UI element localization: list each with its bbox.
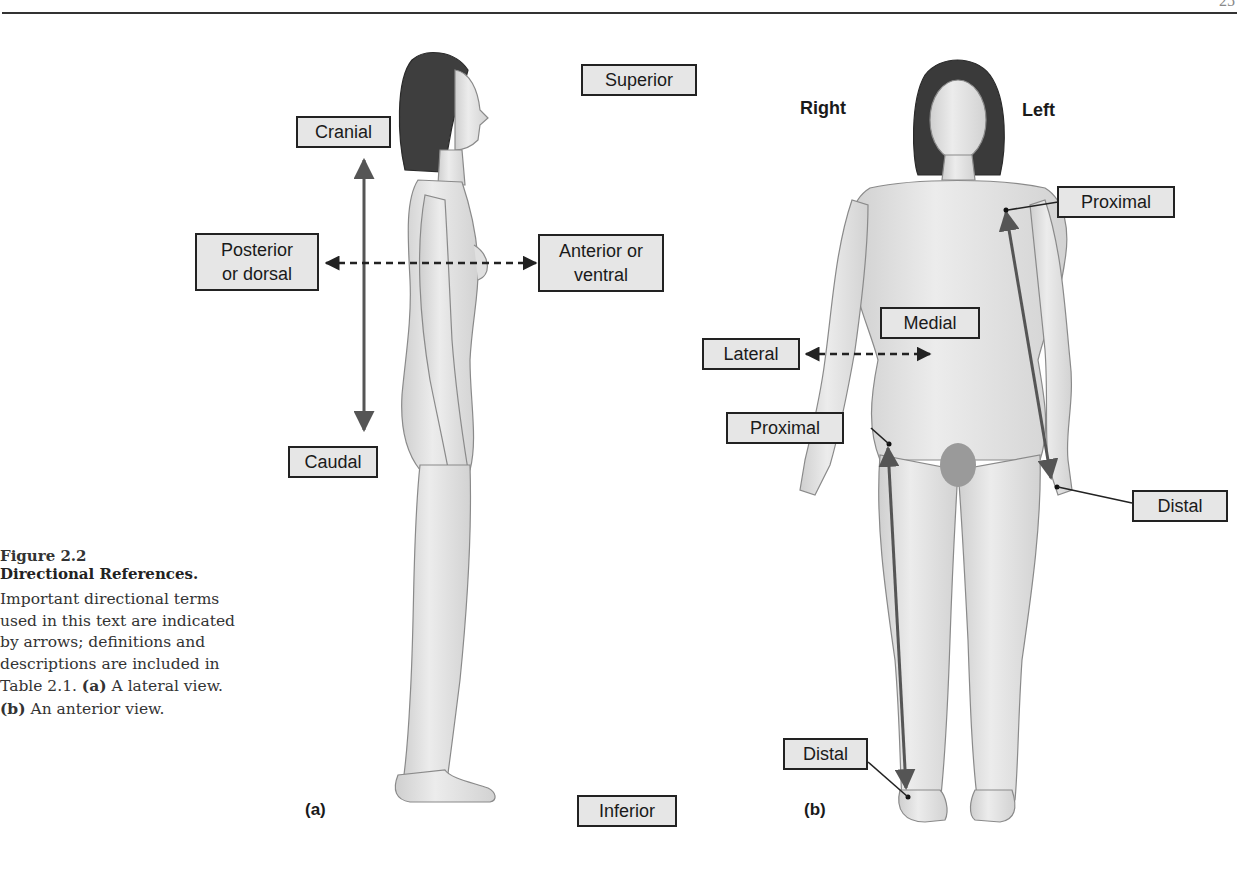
label-posterior-dorsal: Posterior or dorsal — [195, 233, 319, 291]
label-superior: Superior — [581, 64, 697, 96]
label-inferior: Inferior — [577, 795, 677, 827]
label-proximal-arm: Proximal — [1057, 186, 1175, 218]
label-anterior-ventral: Anterior or ventral — [538, 234, 664, 292]
panel-label-b: (b) — [804, 800, 826, 820]
caption-text-2: A lateral view. — [107, 677, 223, 695]
lateral-figure — [395, 53, 495, 802]
figure-number: Figure 2.2 — [0, 547, 235, 565]
label-posterior-line1: Posterior — [205, 238, 309, 262]
label-distal-arm: Distal — [1132, 490, 1228, 522]
figure-description: Important directional terms used in this… — [0, 589, 235, 720]
label-lateral: Lateral — [702, 338, 800, 370]
label-distal-leg: Distal — [783, 738, 868, 770]
label-anterior-line1: Anterior or — [548, 239, 654, 263]
label-anterior-line2: ventral — [548, 263, 654, 287]
caption-ref-a: (a) — [82, 676, 107, 695]
label-posterior-line2: or dorsal — [205, 262, 309, 286]
side-label-left: Left — [1022, 100, 1055, 121]
caption-ref-b: (b) — [0, 699, 26, 718]
side-label-right: Right — [800, 98, 846, 119]
label-proximal-leg: Proximal — [726, 412, 844, 444]
label-cranial: Cranial — [296, 116, 391, 148]
figure-caption: Figure 2.2 Directional References. Impor… — [0, 547, 235, 720]
label-caudal: Caudal — [288, 446, 378, 478]
figure-title: Directional References. — [0, 565, 235, 583]
panel-label-a: (a) — [305, 800, 326, 820]
label-medial: Medial — [880, 307, 980, 339]
caption-text-3: An anterior view. — [26, 700, 165, 718]
anatomy-illustration — [0, 0, 1247, 885]
